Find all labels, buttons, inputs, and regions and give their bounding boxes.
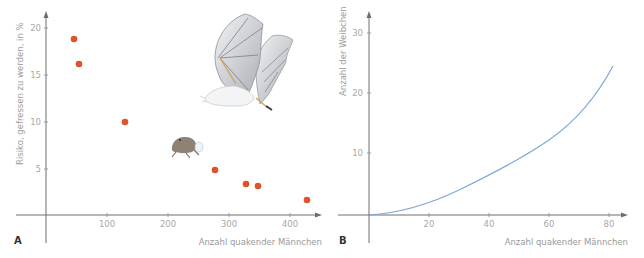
bat-icon <box>200 14 293 110</box>
y-tick-a: 15 <box>30 70 41 80</box>
x-tick-b: 60 <box>544 219 555 229</box>
data-point <box>122 119 129 126</box>
frog-icon <box>161 137 209 159</box>
x-tick-b: 40 <box>484 219 495 229</box>
y-axis-label-b: Anzahl der Weibchen <box>338 6 348 96</box>
y-axis-arrow-icon <box>367 11 372 18</box>
x-axis-arrow-icon <box>315 213 322 218</box>
x-tick-a: 100 <box>99 219 115 229</box>
x-tick-b: 80 <box>604 219 615 229</box>
y-tick-b: 30 <box>352 28 363 38</box>
data-point <box>255 183 262 190</box>
x-tick-b: 20 <box>424 219 435 229</box>
x-axis-arrow-icon <box>621 213 628 218</box>
panel-label-b: B <box>339 235 347 246</box>
data-point <box>304 197 311 204</box>
data-line <box>369 66 613 215</box>
y-tick-a: 10 <box>30 117 41 127</box>
x-axis-label-b: Anzahl quakender Männchen <box>505 237 628 247</box>
chart-a: 100 200 300 400 20 15 10 5 Anzahl quaken… <box>14 11 322 247</box>
figure: 100 200 300 400 20 15 10 5 Anzahl quaken… <box>0 0 644 258</box>
x-tick-a: 200 <box>160 219 176 229</box>
y-tick-b: 10 <box>352 148 363 158</box>
panel-label-a: A <box>14 235 22 246</box>
y-tick-a: 20 <box>30 23 41 33</box>
y-tick-a: 5 <box>36 164 41 174</box>
data-point <box>212 167 219 174</box>
data-point <box>71 36 78 43</box>
data-point <box>243 181 250 188</box>
y-axis-label-a: Risiko, gefressen zu werden, in % <box>15 22 25 165</box>
x-axis-label-a: Anzahl quakender Männchen <box>199 237 322 247</box>
x-tick-a: 400 <box>282 219 298 229</box>
x-tick-a: 300 <box>221 219 237 229</box>
data-point <box>76 61 83 68</box>
chart-b: 20 40 60 80 30 20 10 Anzahl quakender Mä… <box>338 6 628 247</box>
y-tick-b: 20 <box>352 88 363 98</box>
y-axis-arrow-icon <box>44 11 49 18</box>
